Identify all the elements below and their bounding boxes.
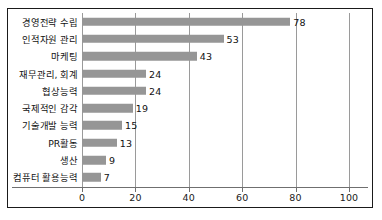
bar-row: PR활동 13 xyxy=(8,134,372,151)
category-label: 국제적인 감각 xyxy=(22,101,78,115)
category-label: 마케팅 xyxy=(51,49,78,63)
value-label: 24 xyxy=(149,85,162,96)
category-label: 기술개발 능력 xyxy=(22,118,78,132)
bar-row: 마케팅 43 xyxy=(8,48,372,65)
x-tick-label: 0 xyxy=(79,192,85,203)
value-label: 9 xyxy=(109,155,115,166)
bar xyxy=(82,156,106,165)
category-label: 생산 xyxy=(60,153,78,167)
value-label: 13 xyxy=(120,137,133,148)
x-tick-label: 100 xyxy=(340,192,359,203)
bar-row: 협상능력 24 xyxy=(8,82,372,99)
category-label: 경영전략 수립 xyxy=(22,15,78,29)
value-label: 19 xyxy=(136,103,149,114)
bar xyxy=(82,17,290,26)
bar xyxy=(82,138,117,147)
bar-row: 생산 9 xyxy=(8,151,372,168)
value-label: 53 xyxy=(227,33,240,44)
bar xyxy=(82,121,122,130)
plot-area: 경영전략 수립 78 인적자원 관리 53 마케팅 43 재무관리, 회계 24… xyxy=(8,9,372,207)
category-label: 협상능력 xyxy=(42,84,78,98)
bar xyxy=(82,173,101,182)
value-label: 78 xyxy=(293,16,306,27)
bar xyxy=(82,35,224,44)
bar-row: 재무관리, 회계 24 xyxy=(8,65,372,82)
x-tick-label: 80 xyxy=(289,192,302,203)
bar-row: 컴퓨터 활용능력 7 xyxy=(8,169,372,186)
x-tick-label: 60 xyxy=(236,192,249,203)
bar-row: 국제적인 감각 19 xyxy=(8,100,372,117)
value-label: 24 xyxy=(149,68,162,79)
value-label: 7 xyxy=(104,172,110,183)
bar-row: 경영전략 수립 78 xyxy=(8,13,372,30)
x-axis-line xyxy=(12,187,368,188)
chart-frame: 경영전략 수립 78 인적자원 관리 53 마케팅 43 재무관리, 회계 24… xyxy=(7,8,373,208)
bar xyxy=(82,69,146,78)
category-label: 컴퓨터 활용능력 xyxy=(13,170,78,184)
bar-row: 인적자원 관리 53 xyxy=(8,30,372,47)
bar xyxy=(82,52,197,61)
value-label: 15 xyxy=(125,120,138,131)
bar xyxy=(82,87,146,96)
category-label: 재무관리, 회계 xyxy=(19,67,78,81)
category-label: 인적자원 관리 xyxy=(22,32,78,46)
bar xyxy=(82,104,133,113)
x-tick-label: 20 xyxy=(129,192,142,203)
category-label: PR활동 xyxy=(48,136,78,150)
value-label: 43 xyxy=(200,51,213,62)
x-tick-label: 40 xyxy=(183,192,196,203)
bar-row: 기술개발 능력 15 xyxy=(8,117,372,134)
